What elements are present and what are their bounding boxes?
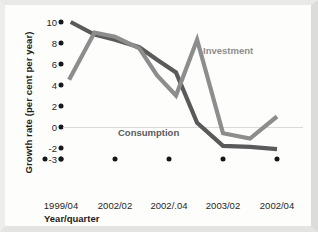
x-tick-marker: [167, 156, 172, 161]
series-lines: [5, 5, 311, 226]
x-axis-title: Year/quarter: [44, 213, 99, 224]
plot-area: Growth rate (per cent per year) 1086420-…: [5, 5, 311, 226]
x-tick-marker: [221, 156, 226, 161]
x-tick-marker: [59, 156, 64, 161]
x-tick-marker: [113, 156, 118, 161]
chart-page: Growth rate (per cent per year) 1086420-…: [0, 0, 318, 232]
x-tick-marker: [275, 156, 280, 161]
x-tick-label: 2002/04: [244, 200, 310, 211]
series-label-investment: Investment: [203, 45, 253, 56]
x-axis-origin-marker: [43, 156, 48, 161]
series-label-consumption: Consumption: [118, 127, 179, 138]
